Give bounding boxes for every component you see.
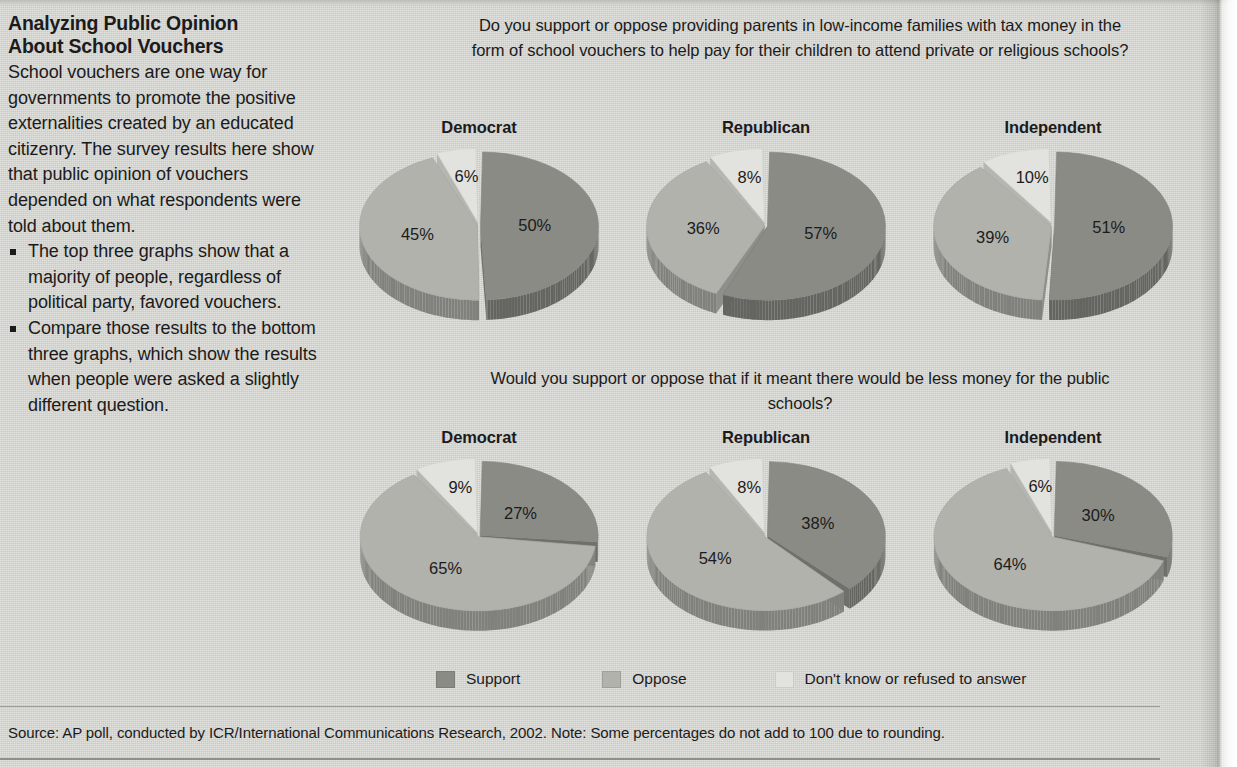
figure-page: Analyzing Public Opinion About School Vo… bbox=[0, 0, 1237, 767]
list-item: The top three graphs show that a majorit… bbox=[8, 239, 326, 316]
pie-slice-label: 51% bbox=[1092, 218, 1125, 237]
pie-slice-label: 6% bbox=[455, 167, 479, 186]
pie-chart-row-top: Democrat 50%45%6% Republican 57%36%8% In… bbox=[336, 118, 1196, 333]
pie-slice-label: 10% bbox=[1016, 167, 1049, 186]
pie-chart-republican-bottom: Republican 38%54%8% bbox=[623, 428, 909, 643]
page-top-trim bbox=[0, 0, 1237, 5]
pie-graphic: 57%36%8% bbox=[623, 140, 909, 330]
page-title-line-2: About School Vouchers bbox=[8, 35, 326, 58]
legend-item-support: Support bbox=[436, 670, 520, 688]
pie-title: Republican bbox=[623, 118, 909, 140]
pie-slice-label: 45% bbox=[401, 224, 434, 243]
pie-title: Independent bbox=[910, 118, 1196, 140]
pie-slice-label: 38% bbox=[801, 514, 834, 533]
bullet-square-icon bbox=[10, 249, 16, 255]
pie-chart-row-bottom: Democrat 27%65%9% Republican 38%54%8% In… bbox=[336, 428, 1196, 643]
pie-graphic: 38%54%8% bbox=[623, 450, 909, 640]
pie-chart-democrat-top: Democrat 50%45%6% bbox=[336, 118, 622, 333]
pie-slice-label: 9% bbox=[448, 477, 472, 496]
pie-chart-democrat-bottom: Democrat 27%65%9% bbox=[336, 428, 622, 643]
pie-slice-label: 39% bbox=[976, 227, 1009, 246]
pie-slice-label: 6% bbox=[1028, 477, 1052, 496]
page-bottom-divider bbox=[0, 758, 1160, 760]
pie-title: Independent bbox=[910, 428, 1196, 450]
source-note: Source: AP poll, conducted by ICR/Intern… bbox=[8, 724, 1158, 741]
pie-title: Democrat bbox=[336, 118, 622, 140]
pie-slice-label: 57% bbox=[804, 224, 837, 243]
bullet-text: Compare those results to the bottom thre… bbox=[28, 318, 317, 415]
pie-title: Republican bbox=[623, 428, 909, 450]
pie-slice-label: 30% bbox=[1082, 506, 1115, 525]
pie-slice-label: 54% bbox=[699, 549, 732, 568]
bullet-list: The top three graphs show that a majorit… bbox=[8, 239, 326, 418]
pie-slice-label: 50% bbox=[518, 216, 551, 235]
legend-swatch-icon bbox=[436, 671, 455, 688]
pie-graphic: 51%39%10% bbox=[910, 140, 1196, 330]
source-divider bbox=[0, 706, 1160, 707]
question-2-text: Would you support or oppose that if it m… bbox=[470, 366, 1130, 416]
legend-swatch-icon bbox=[775, 671, 794, 688]
page-edge-shadow bbox=[1149, 0, 1237, 767]
pie-slice-label: 8% bbox=[737, 477, 761, 496]
legend-label: Don't know or refused to answer bbox=[805, 670, 1027, 688]
pie-slice-label: 64% bbox=[993, 554, 1026, 573]
bullet-square-icon bbox=[10, 326, 16, 332]
pie-slice-label: 27% bbox=[504, 503, 537, 522]
pie-graphic: 50%45%6% bbox=[336, 140, 622, 330]
bullet-text: The top three graphs show that a majorit… bbox=[28, 241, 289, 312]
legend-item-oppose: Oppose bbox=[602, 670, 686, 688]
pie-graphic: 27%65%9% bbox=[336, 450, 622, 640]
chart-legend: Support Oppose Don't know or refused to … bbox=[336, 670, 1156, 688]
legend-item-dont-know: Don't know or refused to answer bbox=[775, 670, 1027, 688]
pie-chart-independent-top: Independent 51%39%10% bbox=[910, 118, 1196, 333]
legend-swatch-icon bbox=[602, 671, 621, 688]
question-1-text: Do you support or oppose providing paren… bbox=[470, 13, 1130, 63]
pie-slice-label: 8% bbox=[737, 167, 761, 186]
page-title-line-1: Analyzing Public Opinion bbox=[8, 12, 326, 35]
legend-label: Oppose bbox=[632, 670, 686, 688]
list-item: Compare those results to the bottom thre… bbox=[8, 316, 326, 418]
pie-slice-label: 65% bbox=[429, 559, 462, 578]
pie-chart-independent-bottom: Independent 30%64%6% bbox=[910, 428, 1196, 643]
pie-graphic: 30%64%6% bbox=[910, 450, 1196, 640]
pie-title: Democrat bbox=[336, 428, 622, 450]
intro-paragraph: School vouchers are one way for governme… bbox=[8, 60, 326, 239]
sidebar-text-column: Analyzing Public Opinion About School Vo… bbox=[8, 12, 326, 418]
legend-label: Support bbox=[466, 670, 520, 688]
pie-chart-republican-top: Republican 57%36%8% bbox=[623, 118, 909, 333]
pie-slice-label: 36% bbox=[687, 218, 720, 237]
